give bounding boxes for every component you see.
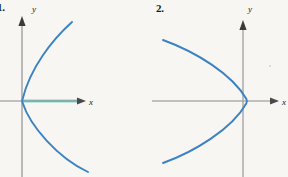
figure-sheet: 1. y x 2. y x [0, 0, 288, 177]
figure-1-plot [0, 0, 144, 177]
x-axis-arrow-icon [270, 98, 279, 105]
figure-2: 2. y x [144, 0, 288, 177]
figure-2-plot [144, 0, 288, 177]
x-axis-label: x [282, 98, 286, 107]
y-axis-arrow-icon [239, 20, 246, 30]
figure-1: 1. y x [0, 0, 144, 177]
y-axis-arrow-icon [18, 16, 25, 26]
print-speck [269, 65, 271, 67]
y-axis-label: y [32, 5, 36, 14]
x-axis-label: x [89, 98, 93, 107]
y-axis-label: y [248, 5, 252, 14]
x-axis-arrow-icon [77, 98, 86, 105]
parabola-curve [22, 22, 88, 172]
